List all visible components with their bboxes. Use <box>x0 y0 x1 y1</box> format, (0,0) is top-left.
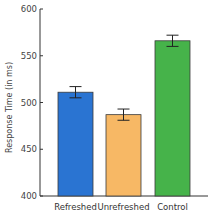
x-category-label: Refreshed <box>54 202 97 212</box>
y-tick-label: 400 <box>21 191 37 201</box>
chart-canvas: 400450500550600Response Time (in ms)Refr… <box>0 0 217 215</box>
y-tick-label: 600 <box>21 4 37 14</box>
y-tick-label: 500 <box>21 98 37 108</box>
bar-control <box>155 41 190 196</box>
y-tick-label: 550 <box>21 51 37 61</box>
y-tick-label: 450 <box>21 144 37 154</box>
bar-refreshed <box>58 92 93 196</box>
x-category-label: Unrefreshed <box>97 202 149 212</box>
x-category-label: Control <box>157 202 188 212</box>
bar-chart: 400450500550600Response Time (in ms)Refr… <box>0 0 217 215</box>
bar-unrefreshed <box>106 115 141 196</box>
y-axis-title: Response Time (in ms) <box>5 62 14 153</box>
